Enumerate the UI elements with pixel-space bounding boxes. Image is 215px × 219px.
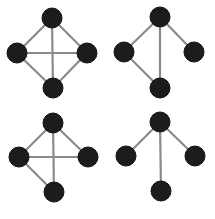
graph-figure: Four small undirected graphs on four ver… [0,0,215,219]
node-right [184,42,204,62]
node-top [42,8,62,28]
node-bottom [150,78,170,98]
node-left [116,146,136,166]
node-top [43,113,63,133]
node-left [9,147,29,167]
graph-4 [116,112,205,201]
graphs-canvas [0,0,215,219]
node-right [78,147,98,167]
node-left [114,42,134,62]
graph-3 [9,113,98,202]
graph-2 [114,7,204,98]
node-right [77,43,97,63]
node-top [150,7,170,27]
node-bottom [44,182,64,202]
node-bottom [151,181,171,201]
node-left [7,43,27,63]
node-top [150,112,170,132]
graph-1 [7,8,97,98]
node-bottom [43,78,63,98]
node-right [185,146,205,166]
